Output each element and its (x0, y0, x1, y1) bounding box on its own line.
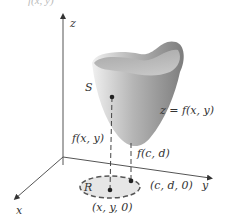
point-c-d-0 (129, 179, 134, 184)
point-cd0-label: (c, d, 0) (150, 180, 193, 191)
height-cd-label: f(c, d) (137, 148, 170, 159)
point-x-y-0 (108, 188, 113, 193)
point-on-surface (110, 95, 115, 100)
height-xy-label: f(x, y) (72, 133, 104, 144)
y-axis-label: y (202, 180, 208, 191)
point-xy0-label: (x, y, 0) (92, 202, 133, 213)
z-axis-label: z (70, 18, 76, 29)
region-label: R (84, 182, 92, 193)
x-axis (16, 157, 63, 198)
equation-label: z = f(x, y) (160, 105, 214, 116)
surface-label: S (85, 82, 93, 93)
surface-s (92, 41, 184, 146)
x-axis-label: x (16, 205, 22, 216)
y-axis (63, 157, 210, 178)
